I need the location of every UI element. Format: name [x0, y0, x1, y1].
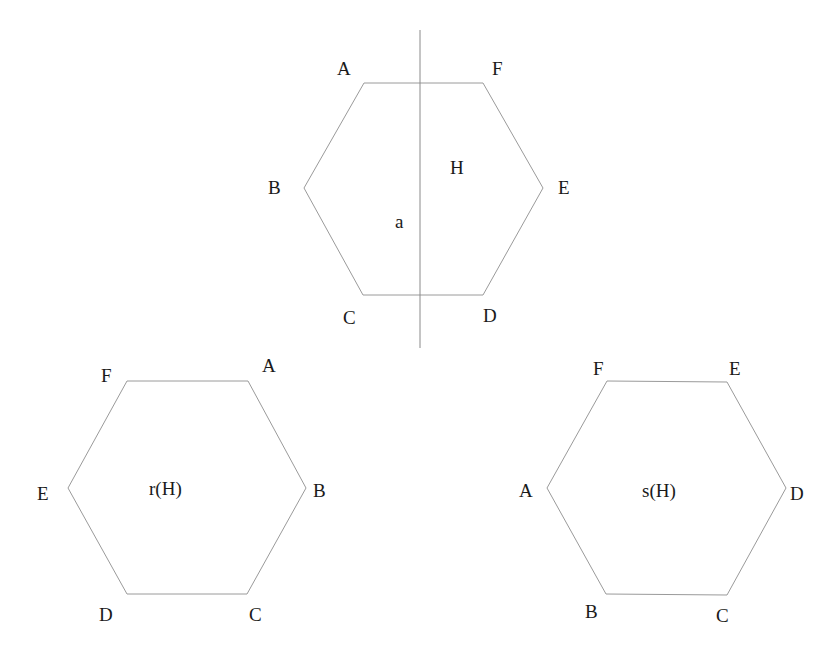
center-label-s-h: s(H) — [642, 480, 676, 502]
vertex-label: A — [262, 355, 276, 376]
hexagon-r-h: F A B C D E r(H) — [37, 355, 326, 625]
hexagon-h: A F E D C B H a — [268, 30, 570, 348]
vertex-label: B — [585, 601, 598, 622]
vertex-label: F — [492, 58, 503, 79]
vertex-label: D — [790, 483, 804, 504]
vertex-label: E — [729, 358, 741, 379]
vertex-label: F — [593, 358, 604, 379]
vertex-label: D — [483, 305, 497, 326]
vertex-label: B — [268, 177, 281, 198]
vertex-label: C — [716, 605, 729, 626]
vertex-label: F — [101, 365, 112, 386]
vertex-label: C — [249, 604, 262, 625]
hexagon-s-h: F E D C B A s(H) — [519, 358, 804, 626]
hexagon-symmetry-diagram: A F E D C B H a F A B C D E r(H) F E D C… — [0, 0, 832, 647]
axis-label-a: a — [395, 211, 404, 232]
hexagon-h-outline — [304, 83, 543, 295]
center-label-h: H — [450, 157, 464, 178]
center-label-r-h: r(H) — [149, 478, 182, 500]
hexagon-r-h-outline — [68, 381, 306, 594]
vertex-label: E — [558, 177, 570, 198]
vertex-label: A — [337, 58, 351, 79]
vertex-label: B — [313, 480, 326, 501]
vertex-label: A — [519, 480, 533, 501]
vertex-label: C — [343, 307, 356, 328]
vertex-label: E — [37, 483, 49, 504]
vertex-label: D — [99, 604, 113, 625]
